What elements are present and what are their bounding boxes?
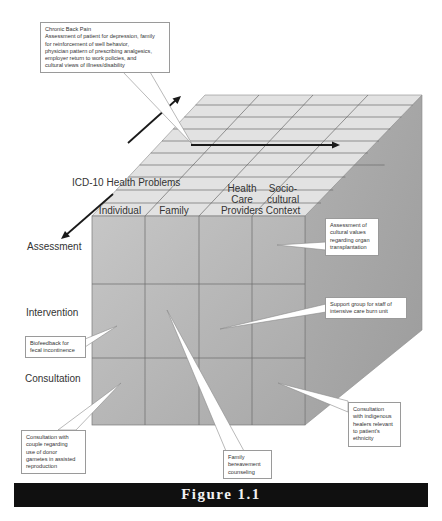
callout-indigenous-healers: Consultation with indigenous healers rel…	[348, 402, 401, 447]
column-label-individual: Individual	[96, 205, 144, 216]
callout-chronic-back-pain: Chronic Back Pain Assessment of patient …	[40, 22, 170, 73]
row-label-consultation: Consultation	[25, 373, 81, 384]
row-label-intervention: Intervention	[26, 307, 78, 318]
axis-label-health-problems: ICD-10 Health Problems	[72, 177, 180, 188]
column-label-family: Family	[150, 205, 198, 216]
callout-bereavement: Family bereavement counseling	[223, 450, 272, 479]
row-label-assessment: Assessment	[27, 241, 81, 252]
callout-organ-transplantation: Assessment of cultural values regarding …	[325, 218, 379, 256]
callout-biofeedback: Biofeedback for fecal incontinence	[25, 336, 86, 358]
callout-burn-unit: Support group for staff of intensive car…	[325, 297, 407, 319]
figure-caption: Figure 1.1	[14, 486, 428, 503]
callout-donor-gametes: Consultation with couple regarding use o…	[21, 430, 86, 474]
figure-caption-bar: Figure 1.1	[14, 483, 428, 507]
column-label-sociocultural-context: Socio- cultural Context	[258, 183, 308, 216]
